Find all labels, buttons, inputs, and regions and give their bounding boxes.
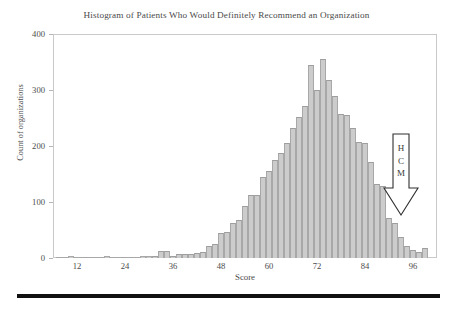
y-tick-mark bbox=[49, 202, 53, 203]
x-tick-label: 24 bbox=[110, 261, 140, 271]
y-axis-label: Count of organizations bbox=[16, 33, 25, 213]
x-tick-label: 48 bbox=[206, 261, 236, 271]
histogram-figure: Histogram of Patients Who Would Definite… bbox=[0, 0, 453, 310]
x-tick-label: 96 bbox=[398, 261, 428, 271]
y-tick-mark bbox=[49, 258, 53, 259]
y-tick-label: 100 bbox=[11, 197, 45, 207]
x-tick-label: 72 bbox=[302, 261, 332, 271]
hcm-arrow-icon bbox=[382, 133, 420, 217]
plot-area bbox=[53, 34, 437, 258]
bottom-divider bbox=[17, 294, 440, 298]
y-tick-label: 400 bbox=[11, 29, 45, 39]
x-axis-label: Score bbox=[53, 272, 437, 282]
y-tick-mark bbox=[49, 90, 53, 91]
y-tick-label: 200 bbox=[11, 141, 45, 151]
x-tick-label: 60 bbox=[254, 261, 284, 271]
y-tick-mark bbox=[49, 34, 53, 35]
x-tick-label: 12 bbox=[62, 261, 92, 271]
page-title: Histogram of Patients Who Would Definite… bbox=[0, 10, 453, 20]
x-tick-label: 84 bbox=[350, 261, 380, 271]
y-tick-label: 0 bbox=[11, 253, 45, 263]
histogram-bar bbox=[422, 248, 428, 258]
x-tick-label: 36 bbox=[158, 261, 188, 271]
y-tick-mark bbox=[49, 146, 53, 147]
y-tick-label: 300 bbox=[11, 85, 45, 95]
